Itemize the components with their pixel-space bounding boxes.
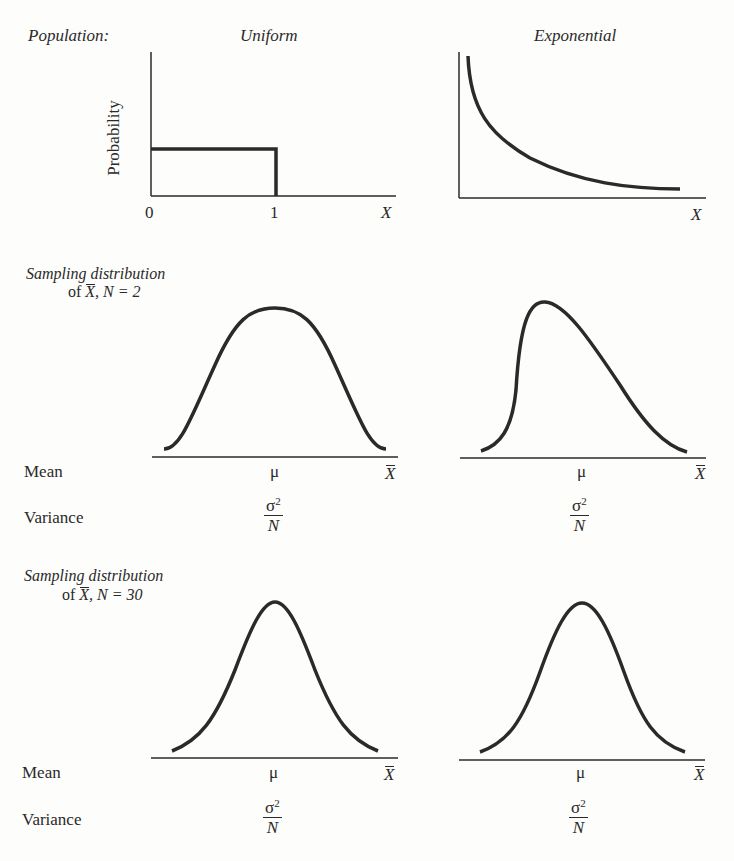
sampling-n2-label-line2: of X, N = 2 bbox=[68, 283, 141, 301]
population-row-label: Population: bbox=[28, 26, 109, 46]
mean-label-n2: Mean bbox=[24, 462, 63, 482]
label-prefix: of bbox=[68, 283, 85, 300]
exponential-column-title: Exponential bbox=[534, 26, 616, 46]
variance-fraction-uniform-n2: σ2 N bbox=[264, 492, 283, 535]
uniform-tick-1: 1 bbox=[270, 203, 279, 223]
exponential-curve bbox=[468, 56, 680, 189]
uniform-tick-0: 0 bbox=[145, 203, 154, 223]
x-bar-axis-label-exponential-n30: X bbox=[694, 765, 704, 785]
uniform-population-plot bbox=[151, 52, 396, 196]
label-suffix: , N = 2 bbox=[95, 283, 140, 300]
x-bar-symbol: X bbox=[79, 586, 89, 604]
mean-label-n30: Mean bbox=[22, 763, 61, 783]
variance-label-n30: Variance bbox=[22, 810, 81, 830]
uniform-n30-plot bbox=[151, 602, 398, 758]
sampling-n2-label-line1: Sampling distribution bbox=[26, 265, 165, 283]
exponential-n30-plot bbox=[459, 603, 705, 760]
uniform-n2-plot bbox=[152, 308, 398, 457]
y-axis-label-probability: Probability bbox=[104, 100, 124, 176]
n30-exponential-curve bbox=[480, 603, 685, 752]
exponential-x-axis-label: X bbox=[691, 205, 701, 225]
x-bar-axis-label-uniform-n2: X bbox=[385, 464, 395, 484]
mean-mu-uniform-n30: μ bbox=[269, 763, 278, 783]
variance-fraction-uniform-n30: σ2 N bbox=[263, 794, 282, 837]
uniform-density-line bbox=[151, 149, 276, 196]
exponential-population-plot bbox=[459, 52, 706, 198]
uniform-x-axis-label: X bbox=[381, 203, 391, 223]
x-bar-axis-label-exponential-n2: X bbox=[695, 464, 705, 484]
mean-mu-uniform-n2: μ bbox=[270, 462, 279, 482]
n2-exponential-curve bbox=[481, 302, 687, 452]
sampling-n30-label-line2: of X, N = 30 bbox=[62, 586, 143, 604]
mean-mu-exponential-n2: μ bbox=[577, 462, 586, 482]
label-prefix: of bbox=[62, 586, 79, 603]
exponential-n2-plot bbox=[460, 302, 706, 458]
n2-uniform-curve bbox=[164, 308, 386, 449]
x-bar-symbol: X bbox=[85, 283, 95, 301]
x-bar-axis-label-uniform-n30: X bbox=[384, 765, 394, 785]
uniform-column-title: Uniform bbox=[240, 26, 298, 46]
variance-fraction-exponential-n30: σ2 N bbox=[569, 794, 588, 837]
variance-fraction-exponential-n2: σ2 N bbox=[570, 492, 589, 535]
label-suffix: , N = 30 bbox=[89, 586, 142, 603]
mean-mu-exponential-n30: μ bbox=[576, 763, 585, 783]
variance-label-n2: Variance bbox=[24, 508, 83, 528]
n30-uniform-curve bbox=[172, 602, 378, 751]
sampling-n30-label-line1: Sampling distribution bbox=[24, 567, 163, 585]
